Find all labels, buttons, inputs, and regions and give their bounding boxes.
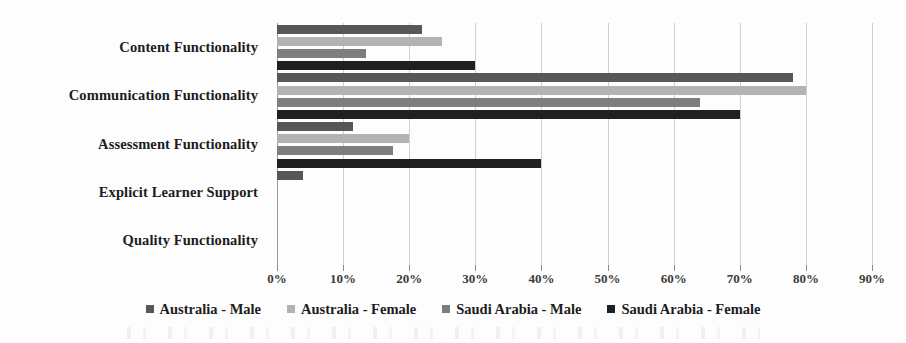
bar [277, 98, 700, 107]
bar-row [277, 171, 872, 180]
chart-legend: Australia - MaleAustralia - FemaleSaudi … [0, 296, 906, 322]
bar-row [277, 49, 872, 58]
x-tick-label: 40% [528, 271, 554, 287]
legend-label: Australia - Male [160, 301, 261, 318]
legend-label: Australia - Female [301, 301, 416, 318]
bar-group [277, 23, 872, 72]
bar-row [277, 183, 872, 192]
category-label: Assessment Functionality [0, 120, 268, 168]
x-tick-label: 80% [793, 271, 819, 287]
x-tick-label: 90% [859, 271, 885, 287]
bar-group [277, 121, 872, 170]
x-tick-label: 60% [661, 271, 687, 287]
legend-swatch-icon [287, 305, 295, 313]
bar-group [277, 169, 872, 218]
bar-row [277, 86, 872, 95]
bar [277, 61, 475, 70]
grouped-bar-chart: Content FunctionalityCommunication Funct… [0, 0, 906, 343]
category-label: Content Functionality [0, 23, 268, 71]
bar-row [277, 159, 872, 168]
bar-row [277, 122, 872, 131]
x-tick-label: 20% [396, 271, 422, 287]
bar-groups [277, 23, 872, 265]
bar [277, 25, 422, 34]
bar [277, 159, 541, 168]
bar-row [277, 232, 872, 241]
bar [277, 86, 806, 95]
x-axis: 0%10%20%30%40%50%60%70%80%90% [277, 265, 872, 289]
bar-group [277, 72, 872, 121]
gridline [872, 23, 873, 265]
category-axis-labels: Content FunctionalityCommunication Funct… [0, 23, 268, 265]
category-label: Communication Functionality [0, 71, 268, 119]
plot-wrapper: Content FunctionalityCommunication Funct… [0, 0, 906, 290]
bar-row [277, 110, 872, 119]
bar-row [277, 98, 872, 107]
plot-area [277, 23, 872, 265]
bar-row [277, 61, 872, 70]
bar [277, 122, 353, 131]
x-tick-label: 10% [330, 271, 356, 287]
category-label: Quality Functionality [0, 217, 268, 265]
bar-row [277, 134, 872, 143]
bar [277, 134, 409, 143]
bar-row [277, 25, 872, 34]
bar-row [277, 256, 872, 265]
x-tick-label: 50% [595, 271, 621, 287]
scan-artifact [120, 327, 760, 339]
bar-row [277, 244, 872, 253]
legend-swatch-icon [442, 305, 450, 313]
legend-item[interactable]: Australia - Female [287, 301, 416, 318]
legend-item[interactable]: Saudi Arabia - Male [442, 301, 581, 318]
bar [277, 171, 303, 180]
bar-row [277, 220, 872, 229]
bar-row [277, 207, 872, 216]
bar [277, 146, 393, 155]
bar-group [277, 218, 872, 267]
legend-swatch-icon [607, 305, 615, 313]
legend-item[interactable]: Australia - Male [146, 301, 261, 318]
legend-label: Saudi Arabia - Female [621, 301, 760, 318]
legend-label: Saudi Arabia - Male [456, 301, 581, 318]
legend-item[interactable]: Saudi Arabia - Female [607, 301, 760, 318]
x-tick-label: 70% [727, 271, 753, 287]
bar-row [277, 73, 872, 82]
bar-row [277, 37, 872, 46]
x-tick-label: 0% [267, 271, 287, 287]
legend-swatch-icon [146, 305, 154, 313]
bar [277, 49, 366, 58]
bar-row [277, 146, 872, 155]
category-label: Explicit Learner Support [0, 168, 268, 216]
bar-row [277, 195, 872, 204]
bar [277, 73, 793, 82]
bar [277, 37, 442, 46]
x-tick-label: 30% [462, 271, 488, 287]
bar [277, 110, 740, 119]
